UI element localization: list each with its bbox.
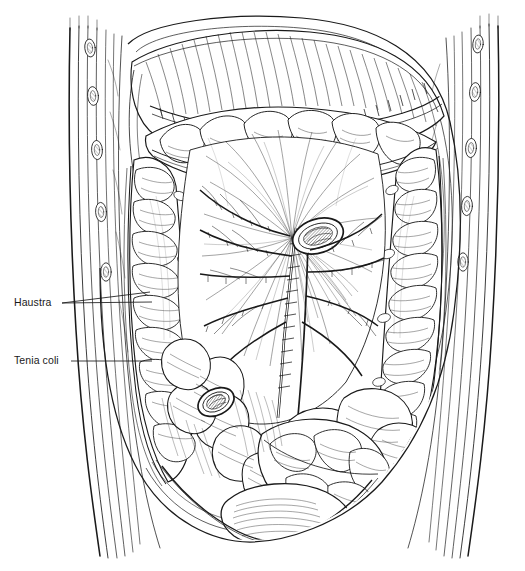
anatomy-figure: Haustra Tenia coli [0,0,525,571]
anatomy-illustration [0,0,525,571]
label-tenia-coli: Tenia coli [14,355,59,366]
label-haustra: Haustra [14,297,51,308]
